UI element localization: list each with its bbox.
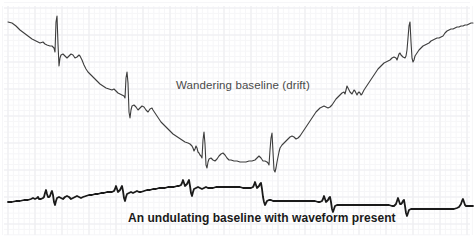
ecg-trace-undulating-baseline	[8, 180, 473, 216]
ecg-trace-layer	[0, 0, 474, 241]
ecg-figure: Wandering baseline (drift) An undulating…	[0, 0, 474, 241]
ecg-trace-wandering-baseline	[8, 16, 473, 172]
